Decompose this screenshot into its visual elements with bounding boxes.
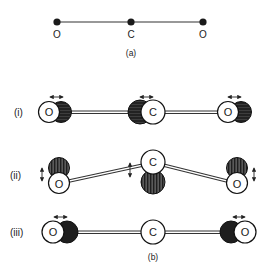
- svg-text:C: C: [149, 106, 157, 118]
- atom-dot-o-left: [53, 18, 60, 25]
- part-a-caption: (a): [126, 48, 137, 58]
- co2-vibration-diagram: O C O (a) (i) O C O (ii) O: [0, 0, 270, 273]
- part-b-caption: (b): [148, 252, 159, 262]
- svg-text:C: C: [149, 226, 157, 238]
- svg-text:O: O: [241, 226, 250, 238]
- atom-label-c: C: [127, 29, 134, 40]
- mode-i-label: (i): [14, 107, 23, 118]
- part-a-linear-molecule: O C O (a): [53, 18, 207, 58]
- svg-text:O: O: [49, 226, 58, 238]
- svg-text:O: O: [45, 106, 54, 118]
- svg-text:O: O: [55, 178, 64, 190]
- atom-dot-c: [127, 18, 134, 25]
- atom-dot-o-right: [199, 18, 206, 25]
- mode-i-symmetric-stretch: (i) O C O: [14, 97, 252, 124]
- svg-text:O: O: [233, 178, 242, 190]
- mode-ii-label: (ii): [10, 170, 21, 181]
- mode-iii-asymmetric-stretch: (iii) O C O: [10, 217, 256, 244]
- atom-label-o-left: O: [53, 29, 61, 40]
- svg-text:O: O: [224, 106, 233, 118]
- mode-ii-bending: (ii) O C O: [10, 150, 254, 194]
- svg-text:C: C: [149, 156, 157, 168]
- atom-label-o-right: O: [199, 29, 207, 40]
- mode-iii-label: (iii): [10, 227, 23, 238]
